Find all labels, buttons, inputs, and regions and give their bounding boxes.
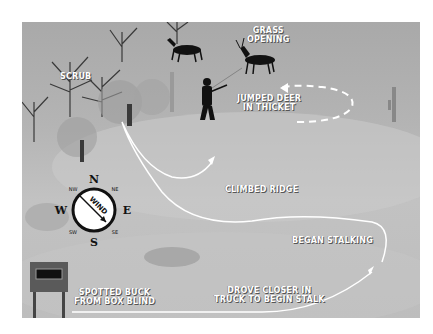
svg-text:N: N: [89, 173, 99, 186]
label-line: GRASS: [247, 26, 289, 35]
label-line: TRUCK TO BEGIN STALK: [214, 295, 325, 304]
label-climbed-ridge: CLIMBED RIDGE: [225, 185, 298, 194]
svg-text:S: S: [90, 236, 98, 249]
svg-text:NE: NE: [112, 186, 119, 192]
label-line: SPOTTED BUCK: [74, 288, 155, 297]
label-line: JUMPED DEER: [237, 94, 301, 103]
label-began-stalking: BEGAN STALKING: [292, 236, 373, 245]
scene-artwork: WIND N S W E NW NE SW SE: [22, 22, 420, 318]
label-line: OPENING: [247, 35, 289, 44]
label-jumped-deer: JUMPED DEER IN THICKET: [237, 94, 301, 112]
label-line: FROM BOX BLIND: [74, 297, 155, 306]
label-grass-opening: GRASS OPENING: [247, 26, 289, 44]
stalk-diagram: WIND N S W E NW NE SW SE SCRUB GRASS OPE…: [22, 22, 420, 318]
label-line: IN THICKET: [237, 103, 301, 112]
svg-text:E: E: [123, 204, 131, 217]
label-scrub: SCRUB: [60, 72, 91, 81]
label-spotted-buck: SPOTTED BUCK FROM BOX BLIND: [74, 288, 155, 306]
svg-text:SE: SE: [112, 229, 118, 235]
label-line: DROVE CLOSER IN: [214, 286, 325, 295]
svg-text:W: W: [54, 204, 68, 217]
label-drove-closer: DROVE CLOSER IN TRUCK TO BEGIN STALK: [214, 286, 325, 304]
svg-text:NW: NW: [69, 186, 78, 192]
svg-text:SW: SW: [69, 229, 77, 235]
